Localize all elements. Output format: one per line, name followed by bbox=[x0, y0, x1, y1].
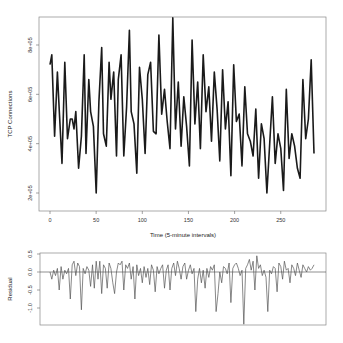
top-x-axis: 050100150200250 bbox=[48, 211, 285, 223]
bottom-y-axis-title: Residual bbox=[7, 277, 13, 300]
top-y-axis-title: TCP Connections bbox=[7, 91, 13, 138]
y-tick-label: 2e+05 bbox=[27, 185, 33, 200]
x-tick-label: 100 bbox=[138, 217, 147, 223]
figure: 050100150200250 2e+054e+056e+058e+05 Tim… bbox=[0, 0, 343, 343]
bottom-panel: 0.50.0-0.5-1.0 Residual bbox=[7, 250, 326, 325]
top-y-axis: 2e+054e+056e+058e+05 bbox=[27, 37, 39, 200]
x-tick-label: 200 bbox=[230, 217, 239, 223]
y-tick-label: 0.5 bbox=[27, 250, 33, 258]
bottom-y-axis: 0.50.0-0.5-1.0 bbox=[27, 250, 40, 313]
x-tick-label: 150 bbox=[184, 217, 193, 223]
y-tick-label: 8e+05 bbox=[27, 37, 33, 52]
y-tick-label: -1.0 bbox=[27, 303, 33, 312]
top-panel: 050100150200250 2e+054e+056e+058e+05 Tim… bbox=[7, 17, 326, 238]
y-tick-label: 0.0 bbox=[27, 268, 33, 276]
x-tick-label: 250 bbox=[276, 217, 285, 223]
x-tick-label: 50 bbox=[93, 217, 99, 223]
top-x-axis-title: Time (5-minute intervals) bbox=[150, 232, 216, 238]
x-tick-label: 0 bbox=[48, 217, 51, 223]
y-tick-label: -0.5 bbox=[27, 285, 33, 294]
residual-series bbox=[50, 256, 314, 324]
y-tick-label: 6e+05 bbox=[27, 87, 33, 102]
bottom-plot-frame bbox=[40, 253, 326, 325]
y-tick-label: 4e+05 bbox=[27, 136, 33, 151]
tcp-connections-series bbox=[50, 18, 314, 193]
